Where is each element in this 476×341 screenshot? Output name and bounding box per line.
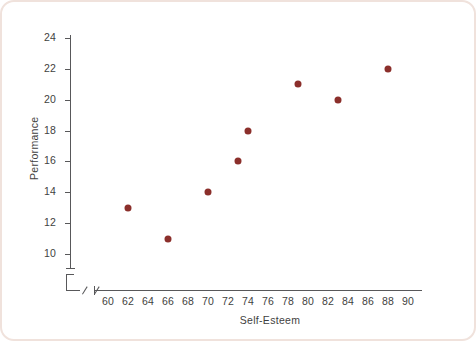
y-tick-mark	[65, 254, 71, 255]
y-axis-end-cap	[66, 268, 75, 269]
x-axis-line	[94, 290, 422, 291]
y-tick-label: 12	[24, 216, 56, 228]
y-tick-mark	[65, 223, 71, 224]
y-tick-label: 22	[24, 62, 56, 74]
axis-break-stroke	[66, 274, 74, 275]
y-tick-label: 20	[24, 93, 56, 105]
axis-break-stroke	[82, 286, 88, 294]
data-point	[205, 189, 212, 196]
y-tick-label: 24	[24, 31, 56, 43]
y-tick-mark	[65, 38, 71, 39]
y-tick-mark	[65, 161, 71, 162]
data-point	[125, 204, 132, 211]
axis-break-stroke	[66, 290, 80, 291]
data-point	[335, 96, 342, 103]
data-point	[295, 81, 302, 88]
y-tick-mark	[65, 69, 71, 70]
x-tick-label: 90	[394, 295, 422, 307]
y-tick-label: 10	[24, 247, 56, 259]
data-point	[245, 127, 252, 134]
data-point	[385, 65, 392, 72]
data-point	[235, 158, 242, 165]
axis-break-stroke	[66, 274, 67, 290]
y-tick-mark	[65, 131, 71, 132]
y-tick-label: 14	[24, 185, 56, 197]
x-axis-title: Self-Esteem	[32, 314, 476, 326]
y-axis-title: Performance	[28, 117, 40, 180]
chart-card: 1012141618202224 60626466687072747678808…	[0, 0, 476, 341]
data-point	[165, 235, 172, 242]
y-tick-mark	[65, 192, 71, 193]
y-tick-mark	[65, 100, 71, 101]
y-axis-line	[70, 35, 71, 268]
scatter-plot: 1012141618202224 60626466687072747678808…	[2, 2, 476, 341]
